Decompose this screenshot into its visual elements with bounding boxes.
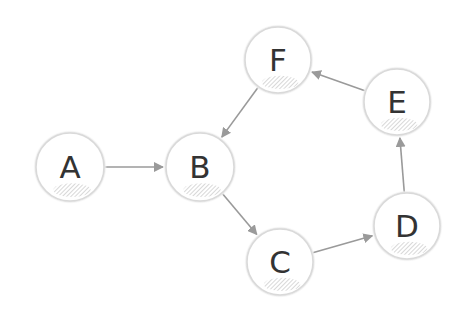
graph-canvas: ABCDEF xyxy=(0,0,476,317)
node-label-c: C xyxy=(269,244,291,280)
node-label-f: F xyxy=(269,42,287,78)
node-shadow xyxy=(183,183,220,197)
node-c[interactable]: C xyxy=(244,226,316,298)
node-label-e: E xyxy=(387,84,407,120)
nodes-layer: ABCDEF xyxy=(33,24,443,298)
node-d[interactable]: D xyxy=(371,190,443,262)
node-f[interactable]: F xyxy=(242,24,314,96)
node-label-a: A xyxy=(59,149,80,185)
node-a[interactable]: A xyxy=(33,130,107,204)
edge-c-to-d xyxy=(313,236,373,253)
node-shadow xyxy=(53,183,90,197)
edge-e-to-f xyxy=(312,72,365,91)
edges-layer xyxy=(105,72,404,253)
edge-d-to-e xyxy=(400,138,404,192)
edge-f-to-b xyxy=(222,87,258,137)
node-label-b: B xyxy=(189,149,210,185)
node-b[interactable]: B xyxy=(163,130,237,204)
node-label-d: D xyxy=(395,208,419,244)
edge-b-to-c xyxy=(223,194,257,235)
node-e[interactable]: E xyxy=(361,66,433,138)
